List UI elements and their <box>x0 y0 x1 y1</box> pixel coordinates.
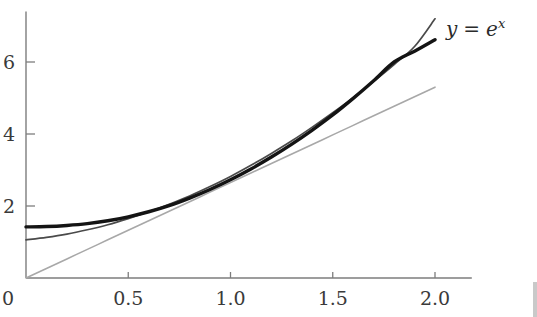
series-exponential <box>26 40 435 227</box>
x-axis-ticks <box>128 272 435 278</box>
x-tick-label: 1.0 <box>215 287 245 309</box>
y-axis-tick-labels: 246 <box>3 51 15 217</box>
y-axis-ticks <box>26 62 35 206</box>
axes-group <box>26 12 472 278</box>
x-axis-tick-labels: 00.51.01.52.0 <box>2 287 450 309</box>
series-tangent-line-through-origin <box>26 87 435 278</box>
data-series-group <box>26 19 435 278</box>
curve-label-y: y <box>445 17 458 41</box>
x-tick-label: 1.5 <box>318 287 348 309</box>
curve-label-e: e <box>486 17 498 41</box>
curve-label-y-equals-e-to-the-x: y=ex <box>445 16 506 41</box>
x-tick-label: 2.0 <box>420 287 450 309</box>
x-tick-label: 0.5 <box>113 287 143 309</box>
y-tick-label: 4 <box>3 123 15 145</box>
curve-label-group: y=ex <box>445 16 506 41</box>
curve-label-exponent: x <box>498 16 506 31</box>
plot-canvas: 00.51.01.52.0 246 y=ex <box>0 0 537 317</box>
y-tick-label: 6 <box>3 51 15 73</box>
x-tick-label: 0 <box>2 287 14 309</box>
y-tick-label: 2 <box>3 195 15 217</box>
page-edge-artifact <box>533 282 537 317</box>
series-approximation-upper <box>26 19 435 240</box>
exponential-function-figure: 00.51.01.52.0 246 y=ex <box>0 0 537 317</box>
curve-label-operator: = <box>463 17 480 41</box>
